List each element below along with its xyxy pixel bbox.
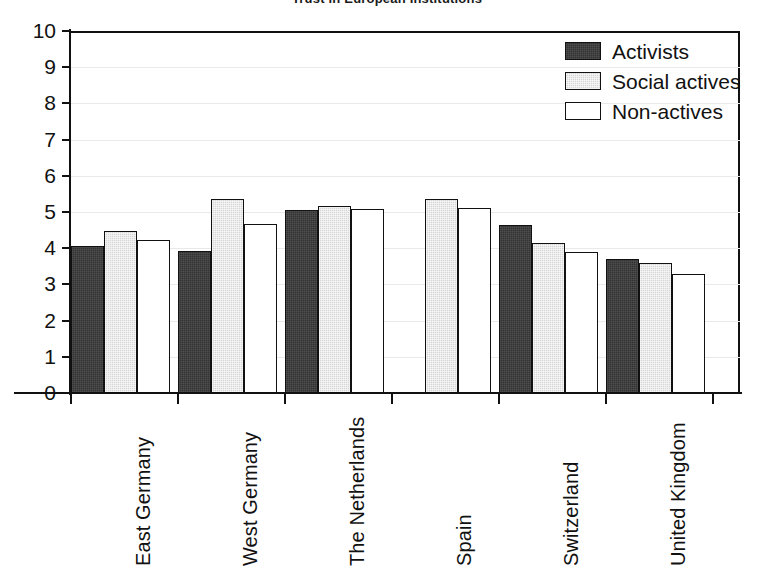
y-tick-8 (62, 102, 71, 104)
x-tick-0 (70, 393, 72, 404)
legend: ActivistsSocial activesNon-actives (565, 38, 745, 128)
legend-item-social-actives: Social actives (565, 68, 745, 94)
white-swatch (565, 102, 601, 120)
y-tick-label-10: 10 (0, 20, 56, 41)
x-axis-label-switzerland: Switzerland (561, 462, 581, 566)
y-tick-9 (62, 66, 71, 68)
gridline-7 (71, 140, 740, 141)
gridline-6 (71, 176, 740, 177)
y-tick-6 (62, 175, 71, 177)
x-tick-5 (605, 393, 607, 404)
legend-item-activists: Activists (565, 38, 745, 64)
light-hatched-swatch (565, 72, 601, 90)
bar-west-germany-social-actives (211, 199, 244, 393)
x-tick-4 (498, 393, 500, 404)
y-tick-4 (62, 247, 71, 249)
chart-title: Trust in European Institutions (0, 0, 774, 6)
x-tick-3 (391, 393, 393, 404)
bar-west-germany-non-actives (244, 224, 277, 393)
legend-label-social-actives: Social actives (612, 71, 740, 92)
y-tick-label-8: 8 (0, 92, 56, 113)
x-tick-1 (177, 393, 179, 404)
y-tick-label-7: 7 (0, 129, 56, 150)
y-tick-label-5: 5 (0, 201, 56, 222)
legend-item-non-actives: Non-actives (565, 98, 745, 124)
y-tick-5 (62, 211, 71, 213)
y-tick-label-2: 2 (0, 310, 56, 331)
bar-east-germany-non-actives (137, 240, 170, 393)
y-tick-label-6: 6 (0, 165, 56, 186)
bar-united-kingdom-non-actives (672, 274, 705, 393)
bar-east-germany-activists (71, 246, 104, 393)
bar-the-netherlands-social-actives (318, 206, 351, 393)
bar-switzerland-activists (499, 225, 532, 393)
x-axis-label-spain: Spain (454, 514, 474, 566)
y-tick-3 (62, 283, 71, 285)
bar-chart: Trust in European Institutions 012345678… (0, 0, 774, 573)
bar-west-germany-activists (178, 251, 211, 393)
bar-the-netherlands-non-actives (351, 209, 384, 393)
legend-label-activists: Activists (612, 41, 689, 62)
x-axis-label-east-germany: East Germany (133, 437, 153, 566)
x-axis-label-united-kingdom: United Kingdom (668, 422, 688, 566)
y-tick-label-4: 4 (0, 237, 56, 258)
x-tick-2 (284, 393, 286, 404)
bar-the-netherlands-activists (285, 210, 318, 393)
y-tick-2 (62, 320, 71, 322)
bar-switzerland-non-actives (565, 252, 598, 393)
x-axis-label-west-germany: West Germany (240, 432, 260, 566)
bar-switzerland-social-actives (532, 243, 565, 393)
y-tick-label-3: 3 (0, 273, 56, 294)
x-tick-6 (712, 393, 714, 404)
y-tick-10 (62, 30, 71, 32)
bar-united-kingdom-social-actives (639, 263, 672, 393)
dark-hatched-swatch (565, 42, 601, 60)
y-tick-label-0: 0 (0, 382, 56, 403)
bar-united-kingdom-activists (606, 259, 639, 393)
bar-spain-social-actives (425, 199, 458, 393)
bar-east-germany-social-actives (104, 231, 137, 393)
bar-spain-non-actives (458, 208, 491, 393)
y-tick-label-1: 1 (0, 346, 56, 367)
x-axis-label-the-netherlands: The Netherlands (347, 417, 367, 566)
legend-label-non-actives: Non-actives (612, 101, 723, 122)
gridline-4 (71, 248, 740, 249)
y-tick-1 (62, 356, 71, 358)
y-tick-label-9: 9 (0, 56, 56, 77)
y-tick-7 (62, 139, 71, 141)
gridline-5 (71, 212, 740, 213)
